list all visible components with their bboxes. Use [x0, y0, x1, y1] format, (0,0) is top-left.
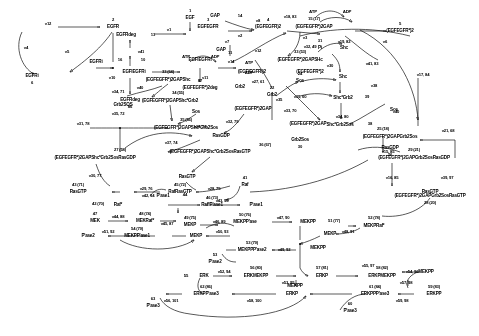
species-label: Sos [296, 79, 304, 84]
species-index: 16 [118, 58, 122, 62]
species-label: MEKPP [310, 246, 325, 251]
species-label: (EGFEGFR*)2GAP [290, 122, 327, 127]
species-index: 15 (17) [308, 17, 320, 21]
species-label: (EGFEGFR*)2GAPShc [146, 78, 191, 83]
species-label: MEK [90, 219, 100, 224]
flux-label: v32, 79 [226, 120, 239, 124]
flux-label: v59, 98 [396, 299, 409, 303]
species-index: 33 (64) [162, 70, 174, 74]
species-label: (EGFEGFR*)2GAPShc*Grb2Sos [154, 126, 218, 131]
species-index: 41 [243, 176, 247, 180]
species-index: 27 (58) [114, 148, 126, 152]
species-index: 31 [318, 39, 322, 43]
flux-label: v27, 61 [252, 80, 265, 84]
species-label: EGFRi [89, 60, 102, 65]
species-index: 56 (80) [250, 266, 262, 270]
flux-label: v19, 82 [338, 40, 351, 44]
species-label: (EGFEGFR*)2GAPShc*Grb2SosRasGTP [170, 150, 251, 155]
species-index: 51 (77) [328, 219, 340, 223]
species-label: EGF [186, 16, 195, 21]
species-index: 45 (72) [174, 183, 186, 187]
species-index: 14 [238, 14, 242, 18]
species-index: 58 (82) [376, 266, 388, 270]
flux-label: v55, 97 [362, 264, 375, 268]
species-label: ERKPMEKPP [368, 274, 395, 279]
flux-label: v43, 95 [216, 199, 229, 203]
flux-label: v11 [202, 76, 208, 80]
species-label: P'ase2 [81, 234, 94, 239]
species-label: Pi [318, 46, 322, 51]
flux-label: v56, 101 [164, 299, 179, 303]
flux-label: v44, 88 [112, 215, 125, 219]
species-label: Grb2SOS [113, 103, 132, 108]
flux-label: v30 [327, 64, 333, 68]
species-index: 55 [184, 274, 188, 278]
species-label: MEKPP [300, 220, 315, 225]
species-label: ERKP [316, 274, 328, 279]
species-index: 62 (86) [200, 285, 212, 289]
species-index: 48 (74) [139, 212, 151, 216]
flux-label: v5 [65, 50, 69, 54]
species-label: (EGFEGFR*)2GAPSHc [277, 58, 322, 63]
flux-label: v48, 91 [342, 230, 355, 234]
flux-label: v41 [138, 50, 144, 54]
species-index: 57 (81) [316, 266, 328, 270]
species-index: 29 (21) [408, 148, 420, 152]
flux-label: v40 [393, 110, 399, 114]
flux-label: v7 [225, 40, 229, 44]
species-index: 50 (76) [239, 213, 251, 217]
species-label: RasGTP [422, 190, 439, 195]
species-label: Raf* [114, 203, 122, 208]
species-label: Shc*Grb2Sos [326, 123, 353, 128]
cofactor-label: ATP [309, 10, 317, 14]
junction-dot [299, 243, 301, 245]
species-label: (EGFEGFR*)2GAPShc*Grb2 [142, 99, 198, 104]
species-label: ERKPP [427, 292, 442, 297]
flux-label: v21, 68 [442, 129, 455, 133]
species-label: (EGFEGFR*)2GAP [235, 107, 272, 112]
flux-label: v6 [383, 40, 387, 44]
flux-label: v47, 90 [277, 216, 290, 220]
species-label: (EGFEGFR*)2GAPGrb2SosRasGTP [394, 194, 465, 199]
species-index: 5 [399, 22, 401, 26]
species-label: EGFRdeg [116, 33, 136, 38]
species-index: 24 [298, 72, 302, 76]
species-index: 59 (83) [428, 285, 440, 289]
cofactor-label: ATP [245, 61, 253, 65]
flux-label: v15, 85 [382, 150, 395, 154]
species-index: 39 [365, 95, 369, 99]
species-index: 1 [189, 9, 191, 13]
flux-label: v34, 71 [112, 90, 125, 94]
species-label: Raf*P'ase1 [201, 203, 223, 208]
species-label: MEKPP'ase [233, 220, 256, 225]
species-index: 33 (53) [294, 50, 306, 54]
flux-label: v32, 49 [304, 45, 317, 49]
species-label: P'ase2 [208, 260, 221, 265]
species-label: MEKP [184, 223, 196, 228]
species-label: RasGTP [179, 175, 196, 180]
species-index: 63 [151, 297, 155, 301]
species-label: Grb2Sos [291, 138, 309, 143]
species-label: EGFIEGFRi [123, 70, 146, 75]
species-index: 53 (79) [246, 241, 258, 245]
species-index: 11 [228, 51, 232, 55]
species-index: 2 [112, 18, 114, 22]
species-index: 61 (84) [369, 285, 381, 289]
species-label: Grb2 [235, 85, 245, 90]
flux-label: v50, 93 [216, 230, 229, 234]
flux-label: v41, 83 [366, 62, 379, 66]
flux-label: v38 [371, 84, 377, 88]
species-label: GAP [210, 14, 219, 19]
flux-label: v3 [303, 36, 307, 40]
cofactor-label: ADP [211, 55, 220, 59]
flux-label: v8 [256, 19, 260, 23]
species-index: 47 [93, 212, 97, 216]
species-index: 54 (79) [131, 227, 143, 231]
species-label: MEKPP [418, 270, 433, 275]
reaction-arrow-layer [0, 0, 479, 336]
species-index: 43 (71) [72, 183, 84, 187]
flux-label: v53, 95 [282, 281, 295, 285]
junction-dot [119, 127, 121, 129]
flux-label: v14 [228, 60, 234, 64]
cofactor-label: ADP [343, 10, 352, 14]
